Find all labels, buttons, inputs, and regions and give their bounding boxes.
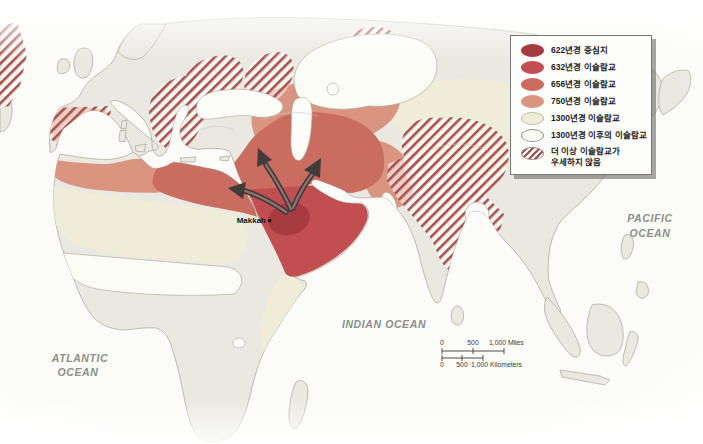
scale-km-0: 0 (440, 361, 444, 368)
scale-miles-500: 500 (467, 339, 479, 346)
legend-item-622: 622년경 중심지 (521, 44, 643, 57)
map-page: ATLANTIC OCEAN INDIAN OCEAN PACIFIC OCEA… (0, 0, 703, 444)
legend-item-no-longer: 더 이상 이슬람교가 우세하지 않음 (521, 146, 643, 167)
legend-label-after-1300: 1300년경 이후의 이슬람교 (551, 130, 647, 141)
legend-item-1300: 1300년경 이슬람교 (521, 112, 643, 125)
legend-label-no-longer: 더 이상 이슬람교가 우세하지 않음 (551, 146, 620, 167)
legend-swatch-750 (521, 95, 544, 108)
scale-km-500: 500 (456, 361, 468, 368)
legend-label-632: 632년경 이슬람교 (551, 62, 616, 73)
indian-ocean-label: INDIAN OCEAN (342, 318, 426, 330)
legend-swatch-656 (521, 78, 544, 91)
map-legend: 622년경 중심지 632년경 이슬람교 656년경 이슬람교 750년경 이슬… (510, 35, 652, 175)
legend-item-750: 750년경 이슬람교 (521, 95, 643, 108)
legend-label-no-longer-line2: 우세하지 않음 (551, 157, 620, 168)
legend-swatch-1300 (521, 112, 544, 125)
legend-swatch-622 (521, 44, 544, 57)
pacific-ocean-label-line1: PACIFIC (627, 212, 672, 224)
atlantic-ocean-label-line2: OCEAN (58, 366, 99, 378)
legend-label-622: 622년경 중심지 (551, 45, 608, 56)
legend-label-no-longer-line1: 더 이상 이슬람교가 (551, 146, 620, 157)
scale-miles-1000: 1,000 Miles (489, 339, 524, 346)
makkah-label: Makkah (237, 216, 266, 225)
scale-miles-0: 0 (440, 339, 444, 346)
legend-label-656: 656년경 이슬람교 (551, 79, 616, 90)
legend-label-1300: 1300년경 이슬람교 (551, 113, 620, 124)
legend-swatch-after-1300 (521, 129, 544, 142)
atlantic-ocean-label-line1: ATLANTIC (51, 352, 109, 364)
legend-swatch-no-longer (521, 147, 544, 160)
legend-item-656: 656년경 이슬람교 (521, 78, 643, 91)
legend-label-750: 750년경 이슬람교 (551, 96, 616, 107)
legend-swatch-632 (521, 61, 544, 74)
makkah-marker (268, 219, 271, 222)
legend-item-after-1300: 1300년경 이후의 이슬람교 (521, 129, 643, 142)
scale-km-1000: 1,000 Kilometers (471, 361, 523, 368)
legend-item-632: 632년경 이슬람교 (521, 61, 643, 74)
pacific-ocean-label-line2: OCEAN (630, 227, 671, 239)
